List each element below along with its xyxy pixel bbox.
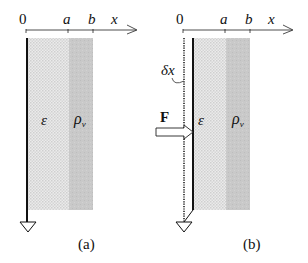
plate-lead (184, 210, 193, 222)
tick-a-label: a (63, 11, 71, 27)
ground-icon (20, 222, 36, 232)
figure-canvas: 0 a b x ε ρv (a) 0 a b x δx (0, 0, 308, 263)
dielectric-label: ε (198, 112, 204, 128)
panel-b: 0 a b x δx F ε ρv (b) (156, 11, 293, 253)
displacement-label: δx (161, 62, 175, 78)
dielectric-region (28, 38, 69, 210)
tick-a-label: a (220, 11, 228, 27)
x-axis (26, 25, 137, 34)
dielectric-label: ε (41, 112, 47, 128)
panel-a: 0 a b x ε ρv (a) (19, 11, 137, 253)
origin-label: 0 (176, 11, 184, 27)
x-axis (183, 25, 293, 34)
panel-b-caption: (b) (243, 236, 261, 253)
ground-icon (176, 222, 192, 232)
axis-label: x (267, 11, 275, 27)
axis-arrow-icon (127, 25, 137, 34)
origin-label: 0 (19, 11, 27, 27)
force-arrow-icon (156, 125, 193, 139)
tick-b-label: b (88, 11, 96, 27)
tick-b-label: b (245, 11, 253, 27)
axis-label: x (110, 11, 118, 27)
axis-arrow-icon (283, 25, 293, 34)
panel-a-caption: (a) (78, 236, 95, 253)
force-label: F (160, 109, 169, 125)
displacement-leader (172, 78, 184, 83)
